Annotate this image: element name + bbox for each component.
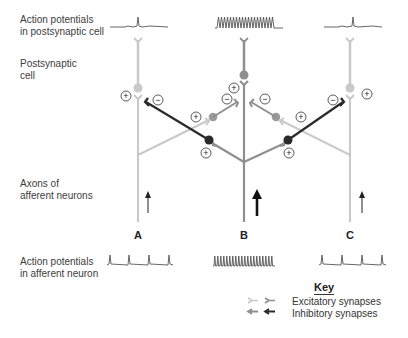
minus-sign-icon: − [260,94,270,104]
arrow-up-icon-c [359,191,365,213]
trace-postsynaptic-b [215,17,283,28]
key-excitatory-icon [248,298,275,303]
svg-text:+: + [123,91,128,101]
svg-text:+: + [364,89,369,99]
svg-text:+: + [231,83,236,93]
svg-text:−: − [224,94,229,104]
trace-afferent-a [107,255,173,265]
plus-sign-icon: + [201,148,211,158]
svg-text:+: + [286,148,291,158]
svg-text:+: + [203,148,208,158]
lateral-inhibition-diagram: + − + − − + + + + − + [0,0,408,338]
svg-text:+: + [298,112,303,122]
arrow-up-icon-a [145,191,151,213]
interneuron-dark-left [145,98,214,145]
svg-text:−: − [330,95,335,105]
plus-sign-icon: + [284,148,294,158]
plus-sign-icon: + [191,112,201,122]
key-inhibitory-icon [248,309,275,314]
plus-sign-icon: + [229,83,239,93]
plus-sign-icon: + [121,91,131,101]
trace-postsynaptic-c [324,17,382,27]
minus-sign-icon: − [222,94,232,104]
trace-afferent-b [213,256,275,266]
trace-afferent-c [319,255,386,265]
svg-text:+: + [193,112,198,122]
minus-sign-icon: − [153,95,163,105]
plus-sign-icon: + [362,89,372,99]
trace-postsynaptic-a [110,17,168,27]
minus-sign-icon: − [328,95,338,105]
svg-text:−: − [155,95,160,105]
svg-text:−: − [262,94,267,104]
postsynaptic-neuron-b [240,38,249,80]
afferent-axon-c [280,95,354,222]
postsynaptic-neuron-a [134,38,143,93]
arrow-up-icon-b [252,189,262,216]
postsynaptic-neuron-c [346,38,355,93]
plus-sign-icon: + [296,112,306,122]
